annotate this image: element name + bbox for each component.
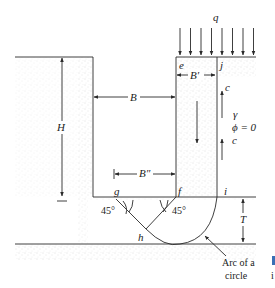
label-h-height: H bbox=[56, 121, 66, 133]
label-arc-line1: Arc of a bbox=[222, 257, 255, 268]
label-b-double-prime: B″ bbox=[139, 167, 151, 179]
soil-regions bbox=[15, 57, 256, 260]
surcharge-load-arrows bbox=[180, 28, 254, 55]
bottom-heave-diagram: q e j B′ B H c c γ ϕ = 0 B″ g f i 45° 45… bbox=[0, 0, 275, 288]
label-gamma: γ bbox=[233, 108, 238, 120]
edge-fragment-text: i bbox=[271, 270, 274, 281]
label-e: e bbox=[179, 59, 184, 71]
label-phi: ϕ = 0 bbox=[232, 121, 257, 133]
label-g: g bbox=[114, 185, 120, 197]
label-h-point: h bbox=[138, 231, 144, 243]
label-q: q bbox=[213, 11, 219, 23]
edge-fragment-mark bbox=[272, 256, 275, 265]
label-arc-line2: circle bbox=[225, 270, 248, 281]
label-b: B bbox=[130, 91, 137, 103]
label-angle-right: 45° bbox=[172, 205, 186, 216]
label-b-prime: B′ bbox=[190, 69, 200, 81]
label-angle-left: 45° bbox=[101, 205, 115, 216]
failure-line-g-h bbox=[116, 199, 146, 229]
label-t: T bbox=[240, 213, 247, 225]
label-c-bottom: c bbox=[232, 134, 237, 146]
label-i: i bbox=[224, 185, 227, 197]
label-c-top: c bbox=[225, 81, 230, 93]
